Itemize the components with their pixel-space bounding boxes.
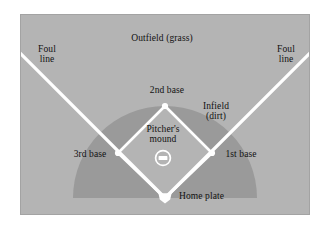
baseball-field-figure: Outfield (grass) Foul line Foul line 2nd… (0, 0, 324, 228)
label-infield: Infield (dirt) (186, 101, 246, 122)
label-outfield: Outfield (grass) (97, 33, 227, 43)
label-first-base: 1st base (213, 149, 269, 159)
label-foul-line-left: Foul line (27, 44, 67, 65)
label-home-plate: Home plate (179, 191, 249, 201)
label-pitchers-mound: Pitcher's mound (127, 124, 199, 145)
label-third-base: 3rd base (62, 149, 118, 159)
label-second-base: 2nd base (132, 85, 202, 95)
label-foul-line-right: Foul line (266, 44, 306, 65)
second-base-marker (162, 103, 168, 109)
pitchers-rubber (159, 156, 168, 160)
